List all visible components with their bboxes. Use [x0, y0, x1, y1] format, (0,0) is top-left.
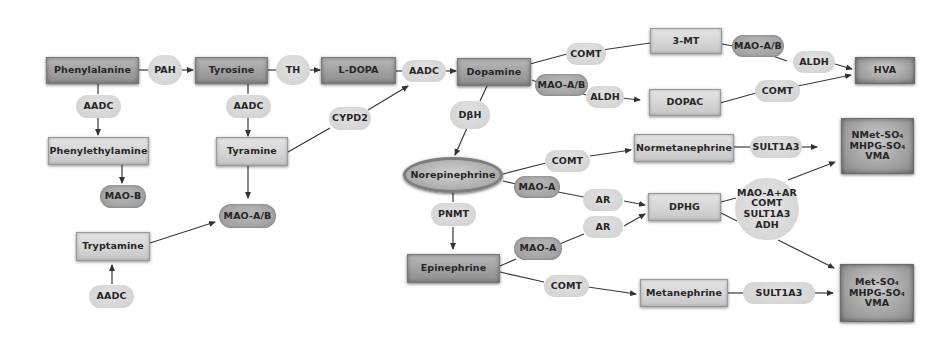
node-tryptamine: Tryptamine [76, 232, 150, 261]
node-normetanephrine: Normetanephrine [634, 134, 734, 162]
enzyme-mao-a-epinephrine: MAO-A [514, 237, 562, 260]
enzyme-label: AADC [97, 291, 127, 302]
enzyme-label: AADC [84, 101, 114, 112]
node-label: Phenylalanine [54, 65, 131, 76]
enzyme-label: MAO-A [519, 182, 556, 193]
enzyme-label: ALDH [590, 92, 620, 103]
enzyme-aadc-ldopa: AADC [402, 60, 446, 82]
node-label: HVA [874, 65, 896, 76]
node-metanephrine: Metanephrine [640, 279, 728, 307]
node-norepinephrine: Norepinephrine [403, 157, 503, 193]
node-phenylalanine: Phenylalanine [46, 57, 139, 84]
node-label: Tyramine [227, 146, 277, 157]
enzyme-aldh-3mt: ALDH [793, 51, 835, 73]
enzyme-label: PNMT [438, 209, 469, 220]
enzyme-label: AR [596, 195, 611, 206]
enzyme-sult1a3-metanephrine: SULT1A3 [743, 282, 815, 304]
node-label: Dopamine [467, 67, 522, 78]
node-3-mt: 3-MT [650, 28, 722, 54]
enzyme-cypd2: CYPD2 [329, 107, 371, 130]
enzyme-aadc-tyrosine: AADC [226, 95, 271, 118]
node-label: Metanephrine [646, 288, 722, 299]
enzyme-pnmt: PNMT [431, 203, 476, 226]
enzyme-aadc-tryptamine: AADC [89, 285, 134, 308]
node-hva: HVA [855, 57, 915, 84]
enzyme-label: TH [286, 65, 301, 76]
end-product-label: VMA [849, 298, 905, 309]
node-end-products-epinephrine: Met-SO₄ MHPG-SO₄ VMA [840, 264, 914, 322]
enzyme-label: AADC [409, 66, 439, 77]
enzyme-label: COMT [552, 156, 583, 167]
node-label: Norepinephrine [411, 170, 496, 181]
enzyme-th: TH [276, 55, 310, 85]
enzyme-label: SULT1A3 [753, 142, 800, 153]
enzyme-label: DβH [459, 110, 482, 121]
node-label: 3-MT [673, 36, 700, 47]
enzyme-mao-a-norepinephrine: MAO-A [514, 176, 560, 198]
node-label: Phenylethylamine [50, 146, 148, 157]
enzyme-label: SULT1A3 [756, 288, 803, 299]
node-label: DPHG [669, 202, 700, 213]
enzyme-label: COMT [551, 281, 582, 292]
node-label: DOPAC [667, 97, 704, 108]
node-tyrosine: Tyrosine [195, 57, 268, 84]
enzyme-label: PAH [154, 65, 176, 76]
node-dopac: DOPAC [649, 89, 721, 116]
enzyme-mao-ab-dopamine: MAO-A/B [535, 74, 588, 96]
enzyme-label: ALDH [799, 57, 829, 68]
node-dphg: DPHG [648, 193, 721, 221]
enzyme-aldh-dopamine: ALDH [586, 86, 624, 108]
node-tyramine: Tyramine [216, 137, 288, 166]
enzyme-label: COMT [762, 86, 793, 97]
enzyme-label: AR [596, 222, 611, 233]
node-label: Normetanephrine [636, 143, 732, 154]
enzyme-mao-b: MAO-B [100, 185, 146, 208]
enzyme-comt-dopamine: COMT [566, 43, 606, 65]
enzyme-ar-epinephrine: AR [583, 216, 623, 238]
node-label: Tryptamine [82, 241, 143, 252]
node-dopamine: Dopamine [457, 58, 531, 86]
node-label: L-DOPA [338, 65, 378, 76]
node-epinephrine: Epinephrine [407, 254, 500, 283]
enzyme-aadc-phenylalanine: AADC [76, 95, 121, 118]
enzyme-pah: PAH [148, 55, 182, 85]
enzyme-comt-dopac: COMT [755, 80, 800, 102]
enzyme-mao-ab-3mt: MAO-A/B [732, 35, 784, 57]
enzyme-label: MAO-A/B [734, 41, 782, 52]
enzyme-label: MAO-B [105, 191, 142, 202]
enzyme-comt-epinephrine: COMT [544, 275, 589, 297]
enzyme-label: MAO-A [520, 243, 557, 254]
pathway-diagram: Phenylalanine PAH Tyrosine TH L-DOPA AAD… [0, 0, 946, 347]
node-l-dopa: L-DOPA [321, 57, 396, 84]
end-product-label: VMA [850, 151, 906, 162]
enzyme-label: AADC [234, 101, 264, 112]
enzyme-label: CYPD2 [332, 113, 368, 124]
enzyme-label: COMT [570, 49, 601, 60]
node-label: Epinephrine [421, 263, 487, 274]
node-end-products-norepinephrine: NMet-SO₄ MHPG-SO₄ VMA [841, 118, 914, 174]
enzyme-group-multi: MAO-A+AR COMT SULT1A3 ADH [735, 178, 799, 240]
enzyme-label: MAO-A/B [224, 211, 272, 222]
node-label: Tyrosine [209, 65, 255, 76]
enzyme-label: ADH [737, 220, 797, 231]
enzyme-comt-norepinephrine: COMT [545, 150, 590, 172]
enzyme-ar-norepinephrine: AR [583, 189, 623, 211]
enzyme-dbh: DβH [450, 101, 490, 129]
enzyme-mao-ab-tyramine: MAO-A/B [219, 204, 276, 228]
node-phenylethylamine: Phenylethylamine [48, 137, 149, 165]
enzyme-sult1a3-normetanephrine: SULT1A3 [750, 136, 802, 158]
enzyme-label: MAO-A/B [538, 80, 586, 91]
